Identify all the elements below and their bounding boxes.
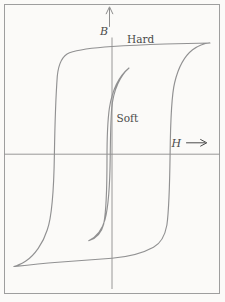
hysteresis-plot-canvas: B Hard Soft H [0, 0, 225, 302]
hard-curve-label: Hard [127, 33, 154, 45]
soft-curve-label: Soft [117, 112, 139, 124]
h-axis-label: H [171, 137, 182, 150]
b-axis-label: B [99, 25, 108, 38]
hysteresis-figure: B Hard Soft H [0, 0, 225, 302]
paper-background [0, 0, 225, 302]
